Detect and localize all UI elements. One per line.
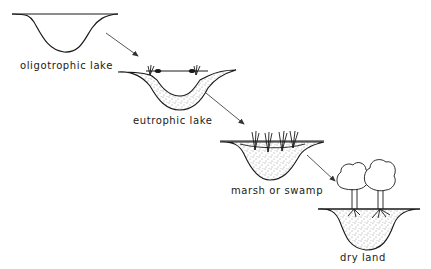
label-dry-land: dry land — [340, 252, 386, 263]
arrow-3 — [307, 155, 335, 181]
marsh-basin — [220, 131, 324, 180]
aquatic-plant-icon — [148, 65, 200, 75]
oligotrophic-lake-basin — [12, 14, 118, 52]
arrow-1 — [106, 33, 138, 56]
succession-diagram — [0, 0, 431, 269]
dry-land-basin — [318, 160, 420, 250]
label-oligotrophic-lake: oligotrophic lake — [20, 60, 113, 71]
label-eutrophic-lake: eutrophic lake — [133, 115, 212, 126]
label-marsh-or-swamp: marsh or swamp — [231, 185, 323, 196]
